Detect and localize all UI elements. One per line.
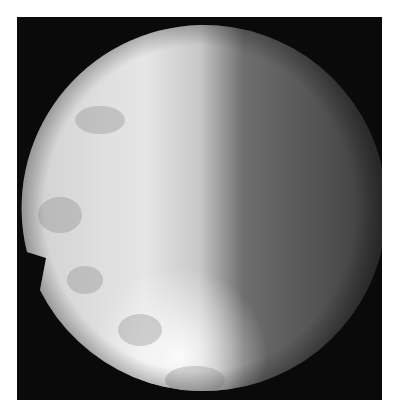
view-content: [17, 17, 382, 410]
circular-view: [0, 0, 397, 412]
